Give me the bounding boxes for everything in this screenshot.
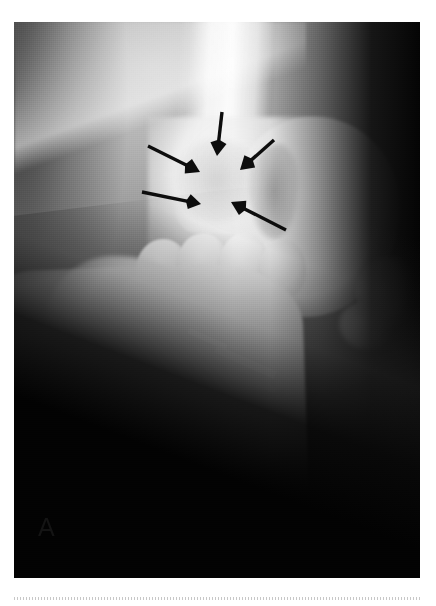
scan-edge-artifact	[14, 597, 422, 600]
figure-root: A	[0, 0, 436, 606]
radiograph-image: A	[14, 22, 420, 578]
panel-label: A	[38, 515, 55, 540]
film-lower-shadow	[14, 161, 420, 578]
